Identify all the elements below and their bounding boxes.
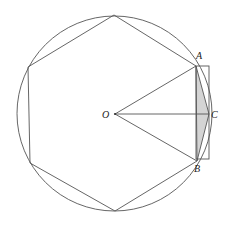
segment-OB [115,114,197,161]
shaded-segment [196,66,209,161]
geometry-diagram: O A B C [0,0,226,228]
label-A: A [195,50,203,61]
label-B: B [194,163,200,174]
hexagon [28,15,197,211]
label-O: O [102,109,109,120]
center-point [114,113,116,115]
label-C: C [211,109,218,120]
segment-OA [115,66,196,114]
